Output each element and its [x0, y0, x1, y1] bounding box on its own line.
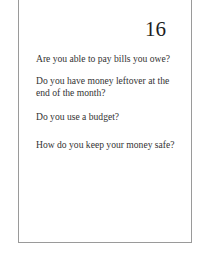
- question-card: 16 Are you able to pay bills you owe? Do…: [18, 0, 192, 243]
- question-1: Are you able to pay bills you owe?: [36, 53, 176, 65]
- question-4: How do you keep your money safe?: [36, 139, 176, 151]
- page-number: 16: [145, 17, 166, 42]
- question-3: Do you use a budget?: [36, 111, 176, 123]
- question-2: Do you have money leftover at the end of…: [36, 75, 176, 99]
